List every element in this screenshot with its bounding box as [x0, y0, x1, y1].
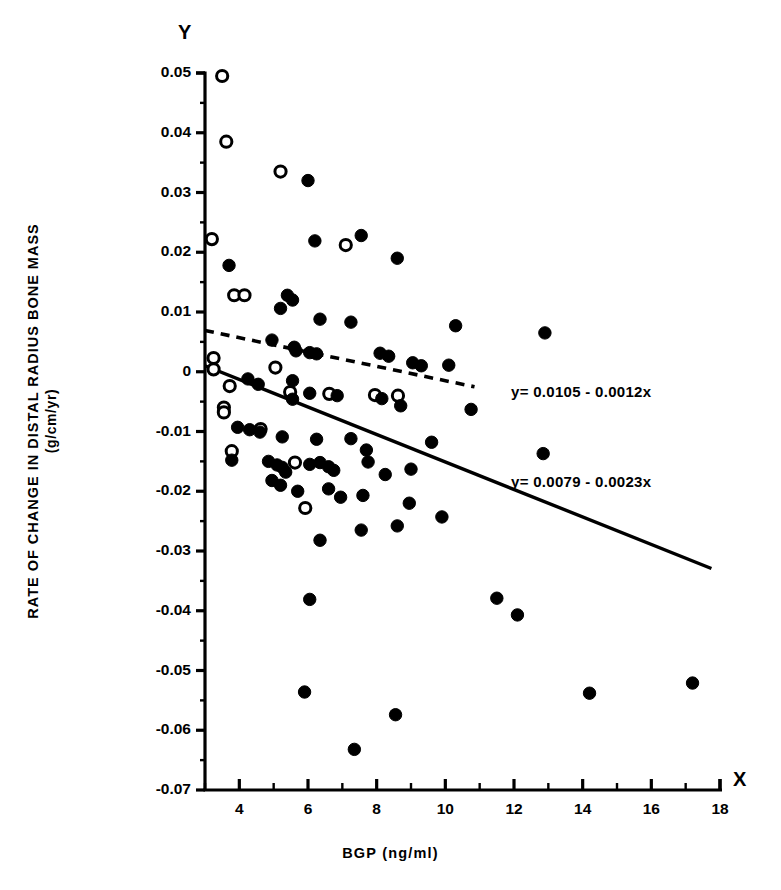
x-tick-label: 12 [504, 800, 524, 818]
filled-data-point [226, 454, 238, 466]
filled-data-point [491, 592, 503, 604]
filled-data-point [425, 436, 437, 448]
filled-data-point [274, 479, 286, 491]
open-data-point [275, 166, 286, 177]
filled-data-point [379, 468, 391, 480]
filled-data-point [252, 378, 264, 390]
filled-data-point [405, 463, 417, 475]
filled-data-point [314, 313, 326, 325]
open-data-point [224, 380, 235, 391]
x-tick-label: 18 [710, 800, 730, 818]
open-data-point [208, 352, 219, 363]
open-data-point [289, 457, 300, 468]
filled-data-point [286, 294, 298, 306]
y-axis-title-line1: RATE OF CHANGE IN DISTAL RADIUS BONE MAS… [25, 223, 41, 618]
filled-data-point [391, 252, 403, 264]
filled-data-point [415, 360, 427, 372]
y-tick-label: -0.07 [156, 780, 191, 798]
y-tick-label: 0.03 [161, 183, 191, 201]
filled-data-point [360, 444, 372, 456]
x-tick-label: 10 [435, 800, 455, 818]
filled-data-point [274, 302, 286, 314]
filled-data-point [276, 431, 288, 443]
filled-data-point [309, 235, 321, 247]
x-tick-label: 6 [298, 800, 318, 818]
filled-data-point [314, 534, 326, 546]
filled-data-point [304, 387, 316, 399]
filled-data-point [322, 483, 334, 495]
filled-data-point [331, 389, 343, 401]
filled-data-point [583, 687, 595, 699]
filled-data-point [537, 447, 549, 459]
x-tick-label: 14 [573, 800, 593, 818]
y-tick-label: 0.04 [161, 123, 191, 141]
filled-data-point [449, 320, 461, 332]
filled-data-point [304, 593, 316, 605]
filled-data-point [395, 400, 407, 412]
open-data-point [208, 364, 219, 375]
open-data-point [218, 407, 229, 418]
open-data-point [217, 70, 228, 81]
filled-data-point [465, 403, 477, 415]
y-tick-label: -0.05 [156, 661, 191, 679]
x-axis-letter: X [733, 768, 746, 791]
y-tick-label: -0.03 [156, 541, 191, 559]
filled-data-point [686, 677, 698, 689]
y-tick-label: -0.06 [156, 720, 191, 738]
filled-data-point [286, 375, 298, 387]
x-tick-label: 16 [641, 800, 661, 818]
y-axis-title-line2: (g/cm/yr) [43, 389, 59, 454]
filled-data-point [403, 497, 415, 509]
y-tick-label: 0 [182, 362, 191, 380]
filled-data-point [334, 491, 346, 503]
open-data-point [270, 362, 281, 373]
y-tick-label: -0.02 [156, 481, 191, 499]
filled-data-point [298, 686, 310, 698]
filled-data-point [355, 524, 367, 536]
y-axis-letter: Y [178, 21, 191, 44]
filled-data-point [310, 348, 322, 360]
open-data-point [206, 234, 217, 245]
filled-data-point [279, 466, 291, 478]
x-tick-label: 8 [367, 800, 387, 818]
x-tick-label: 4 [229, 800, 249, 818]
filled-data-point [345, 432, 357, 444]
open-data-point [300, 502, 311, 513]
filled-data-point [254, 426, 266, 438]
y-tick-label: 0.02 [161, 242, 191, 260]
filled-data-point [376, 392, 388, 404]
open-data-point [221, 136, 232, 147]
filled-data-point [302, 174, 314, 186]
filled-data-point [389, 709, 401, 721]
y-tick-label: -0.04 [156, 601, 191, 619]
filled-data-point [266, 334, 278, 346]
filled-data-point [292, 485, 304, 497]
filled-data-point [443, 359, 455, 371]
filled-data-point [511, 609, 523, 621]
filled-data-point [539, 327, 551, 339]
data-points [206, 70, 698, 755]
filled-data-point [223, 259, 235, 271]
filled-data-point [348, 743, 360, 755]
dashed-line-equation-label: y= 0.0105 - 0.0012x [511, 383, 651, 400]
y-tick-label: 0.01 [161, 302, 191, 320]
filled-data-point [362, 456, 374, 468]
filled-data-point [382, 350, 394, 362]
y-tick-label: 0.05 [161, 63, 191, 81]
open-data-point [340, 239, 351, 250]
axes [196, 71, 722, 790]
filled-data-point [328, 464, 340, 476]
filled-data-point [355, 229, 367, 241]
filled-data-point [345, 316, 357, 328]
filled-data-point [231, 421, 243, 433]
y-tick-label: -0.01 [156, 422, 191, 440]
filled-data-point [436, 511, 448, 523]
open-data-point [239, 290, 250, 301]
filled-data-point [357, 489, 369, 501]
x-axis-title: BGP (ng/ml) [0, 845, 781, 861]
filled-data-point [310, 433, 322, 445]
solid-line-equation-label: y= 0.0079 - 0.0023x [511, 473, 651, 490]
y-axis-title: RATE OF CHANGE IN DISTAL RADIUS BONE MAS… [20, 141, 64, 701]
filled-data-point [290, 345, 302, 357]
figure-canvas: 0.050.040.030.020.010-0.01-0.02-0.03-0.0… [0, 0, 781, 890]
